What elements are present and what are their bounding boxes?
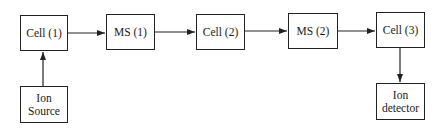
node-ion-detector: Ion detector: [376, 83, 425, 120]
node-cell-2: Cell (2): [196, 14, 245, 50]
node-label: Cell (1): [26, 27, 61, 40]
node-label: Ion Source: [28, 92, 60, 118]
node-cell-3: Cell (3): [376, 12, 425, 48]
node-ion-source: Ion Source: [20, 86, 68, 123]
node-label: Cell (3): [383, 24, 418, 37]
node-ms-2: MS (2): [288, 13, 338, 49]
node-label: Cell (2): [203, 26, 238, 39]
node-label: MS (1): [114, 26, 147, 39]
node-ms-1: MS (1): [106, 14, 155, 50]
node-cell-1: Cell (1): [20, 15, 68, 51]
node-label: MS (2): [297, 25, 330, 38]
node-label: Ion detector: [382, 89, 419, 115]
